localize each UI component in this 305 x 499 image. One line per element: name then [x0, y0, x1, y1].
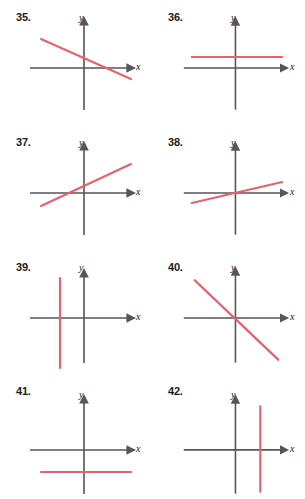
red-line: [195, 280, 278, 359]
exercise-panel-41: 41. x y: [0, 374, 152, 499]
exercise-panel-37: 37. x y: [0, 125, 152, 250]
graph-41: [0, 374, 152, 499]
y-axis-label: y: [79, 13, 83, 23]
exercise-panel-35: 35. x y: [0, 0, 152, 125]
x-axis-label: x: [136, 444, 140, 454]
graph-39: [0, 250, 152, 375]
x-axis-label: x: [136, 62, 140, 72]
y-axis-label: y: [231, 138, 235, 148]
x-axis-label: x: [290, 312, 294, 322]
y-axis-label: y: [79, 263, 83, 273]
x-axis-label: x: [290, 444, 294, 454]
graph-35: [0, 0, 152, 125]
exercise-page: 35. x y 36.: [0, 0, 305, 499]
x-axis-label: x: [290, 62, 294, 72]
exercise-panel-42: 42. x y: [152, 374, 304, 499]
red-line: [41, 164, 131, 206]
x-axis-label: x: [136, 312, 140, 322]
graph-42: [152, 374, 304, 499]
graph-38: [152, 125, 304, 250]
exercise-panel-36: 36. x y: [152, 0, 304, 125]
exercise-panel-38: 38. x y: [152, 125, 304, 250]
y-axis-label: y: [231, 390, 235, 400]
graph-37: [0, 125, 152, 250]
exercise-panel-40: 40. x y: [152, 250, 304, 375]
graph-40: [152, 250, 304, 375]
y-axis-label: y: [231, 13, 235, 23]
graph-36: [152, 0, 304, 125]
x-axis-label: x: [290, 187, 294, 197]
exercise-panel-39: 39. x y: [0, 250, 152, 375]
y-axis-label: y: [79, 390, 83, 400]
x-axis-label: x: [136, 187, 140, 197]
red-line: [41, 39, 131, 79]
y-axis-label: y: [79, 138, 83, 148]
y-axis-label: y: [231, 263, 235, 273]
